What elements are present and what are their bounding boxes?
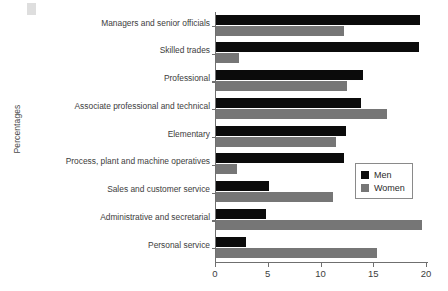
bar-women — [216, 192, 333, 202]
legend-swatch-women-icon — [361, 184, 369, 192]
legend-swatch-men-icon — [361, 171, 369, 179]
bar-women — [216, 53, 239, 63]
chart-figure: Percentages Managers and senior official… — [0, 0, 448, 291]
x-axis-tick — [426, 262, 427, 267]
category-label: Managers and senior officials — [101, 18, 210, 28]
bar-women — [216, 248, 377, 258]
legend-item-men: Men — [361, 168, 405, 181]
bar-men — [216, 237, 246, 247]
category-label: Process, plant and machine operatives — [66, 156, 210, 166]
x-axis-tick — [268, 262, 269, 267]
y-axis-title: Percentages — [12, 89, 22, 169]
x-axis-tick — [373, 262, 374, 267]
bar-women — [216, 220, 422, 230]
x-axis-tick-label: 20 — [411, 268, 441, 279]
category-label: Administrative and secretarial — [100, 212, 210, 222]
bar-women — [216, 26, 344, 36]
x-axis-tick-label: 5 — [253, 268, 283, 279]
bar-women — [216, 81, 347, 91]
category-label: Sales and customer service — [107, 184, 210, 194]
x-axis-tick-label: 0 — [200, 268, 230, 279]
bar-men — [216, 98, 361, 108]
legend-label-women: Women — [374, 183, 405, 193]
x-axis-tick-label: 15 — [358, 268, 388, 279]
bar-men — [216, 15, 420, 25]
legend: Men Women — [355, 163, 413, 199]
bar-women — [216, 164, 237, 174]
x-axis-tick-label: 10 — [306, 268, 336, 279]
x-axis-tick — [321, 262, 322, 267]
legend-label-men: Men — [374, 170, 392, 180]
category-label: Associate professional and technical — [75, 101, 210, 111]
bar-men — [216, 70, 363, 80]
category-label: Personal service — [148, 240, 210, 250]
bar-women — [216, 137, 336, 147]
plot-area: Managers and senior officialsSkilled tra… — [215, 12, 427, 262]
category-label: Skilled trades — [160, 45, 210, 55]
bar-men — [216, 42, 419, 52]
bar-men — [216, 209, 266, 219]
legend-item-women: Women — [361, 181, 405, 194]
bar-men — [216, 181, 269, 191]
x-axis-tick — [215, 262, 216, 267]
square-marker-icon — [27, 3, 36, 15]
bar-men — [216, 153, 344, 163]
bar-women — [216, 109, 387, 119]
category-label: Professional — [164, 73, 210, 83]
category-label: Elementary — [168, 129, 210, 139]
bar-men — [216, 126, 346, 136]
